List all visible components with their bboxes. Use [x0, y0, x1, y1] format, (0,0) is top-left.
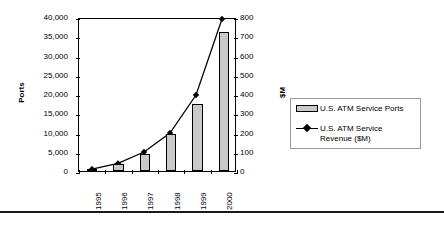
y-axis-right-title: $M: [278, 63, 287, 123]
x-axis-tick-1998: 1998: [174, 192, 182, 210]
y-axis-left-tick-mark: [76, 154, 80, 155]
y-axis-right-tick-mark: [234, 96, 238, 97]
y-axis-left-tick: 5,000: [18, 149, 68, 157]
x-axis-tick-2000: 2000: [226, 192, 234, 210]
chart-figure: Ports $M 05,00010,00015,00020,00025,0003…: [0, 0, 444, 225]
y-axis-right-tick: 0: [240, 168, 270, 176]
y-axis-left-tick: 40,000: [18, 14, 68, 22]
y-axis-left-tick-mark: [76, 96, 80, 97]
bar-ports-1995: [87, 169, 98, 171]
y-axis-left-tick: 30,000: [18, 53, 68, 61]
bar-swatch-icon: [296, 105, 318, 112]
y-axis-left-tick: 25,000: [18, 72, 68, 80]
y-axis-right-tick-mark: [234, 135, 238, 136]
y-axis-right-tick-mark: [234, 77, 238, 78]
bar-ports-1997: [140, 154, 151, 171]
y-axis-left-tick: 35,000: [18, 33, 68, 41]
bar-ports-2000: [219, 32, 230, 171]
y-axis-right-tick-mark: [234, 38, 238, 39]
y-axis-left-tick: 20,000: [18, 91, 68, 99]
y-axis-left-tick-mark: [76, 77, 80, 78]
bar-ports-1999: [192, 104, 203, 171]
legend-label-revenue: U.S. ATM Service Revenue ($M): [320, 124, 383, 143]
revenue-marker-2000: [219, 16, 225, 22]
y-axis-left-tick-mark: [76, 38, 80, 39]
y-axis-left-tick: 15,000: [18, 110, 68, 118]
chart-legend: U.S. ATM Service Ports U.S. ATM Service …: [290, 98, 421, 149]
y-axis-right-tick: 800: [240, 14, 270, 22]
legend-label-ports: U.S. ATM Service Ports: [320, 104, 403, 114]
y-axis-left-tick: 10,000: [18, 130, 68, 138]
y-axis-right-tick: 300: [240, 110, 270, 118]
y-axis-left-tick-labels: 05,00010,00015,00020,00025,00030,00035,0…: [18, 0, 68, 225]
y-axis-right-tick-mark: [234, 115, 238, 116]
y-axis-left-tick-mark: [76, 19, 80, 20]
x-axis-tick-1995: 1995: [95, 192, 103, 210]
legend-item-revenue: U.S. ATM Service Revenue ($M): [296, 124, 383, 143]
bar-ports-1998: [166, 134, 177, 171]
bar-ports-1996: [113, 164, 124, 171]
y-axis-right-tick-mark: [234, 19, 238, 20]
y-axis-right-tick: 100: [240, 149, 270, 157]
y-axis-right-tick-mark: [234, 154, 238, 155]
plot-area: [78, 18, 236, 172]
x-axis-tick-1997: 1997: [147, 192, 155, 210]
x-axis-tick-mark: [237, 170, 238, 174]
y-axis-left-tick-mark: [76, 58, 80, 59]
y-axis-right-tick: 400: [240, 91, 270, 99]
legend-item-ports: U.S. ATM Service Ports: [296, 104, 403, 114]
x-axis-tick-1999: 1999: [200, 192, 208, 210]
y-axis-right-tick-labels: 0100200300400500600700800: [240, 0, 270, 225]
line-diamond-swatch-icon: [296, 124, 318, 133]
y-axis-left-tick: 0: [18, 168, 68, 176]
bottom-divider: [0, 211, 444, 213]
y-axis-right-tick: 200: [240, 130, 270, 138]
y-axis-right-tick-mark: [234, 58, 238, 59]
y-axis-right-tick: 700: [240, 33, 270, 41]
x-axis-tick-1996: 1996: [121, 192, 129, 210]
y-axis-right-tick: 600: [240, 53, 270, 61]
y-axis-left-tick-mark: [76, 115, 80, 116]
revenue-line-series: [79, 19, 235, 171]
x-axis-tick-labels: 199519961997199819992000: [78, 172, 236, 222]
y-axis-right-tick: 500: [240, 72, 270, 80]
y-axis-left-tick-mark: [76, 135, 80, 136]
